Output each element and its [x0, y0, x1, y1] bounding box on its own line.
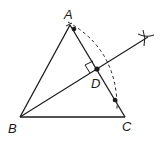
right-angle-marker	[85, 61, 93, 73]
construction-point-lower	[113, 98, 118, 103]
geometry-diagram: A B C D	[0, 0, 166, 141]
point-d	[94, 66, 99, 71]
label-c: C	[122, 119, 132, 134]
construction-point-upper	[72, 27, 77, 32]
label-d: D	[91, 76, 100, 91]
label-a: A	[63, 7, 73, 22]
segment-ab	[20, 25, 70, 117]
label-b: B	[8, 121, 17, 136]
